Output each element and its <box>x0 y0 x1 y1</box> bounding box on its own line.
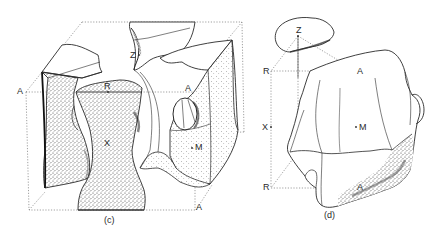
panel-c-label-A-left: A <box>17 87 23 96</box>
panel-c-label-X: X <box>104 139 110 148</box>
panel-d-label-R-bottom: R <box>263 183 270 192</box>
panel-c-label-A-bottom-right: A <box>196 203 202 212</box>
panel-c-label-R: R <box>104 82 111 91</box>
panel-d-label-A-top: A <box>357 67 363 76</box>
figure-drawing <box>0 0 446 239</box>
panel-d-label-R-top: R <box>263 67 270 76</box>
panel-c-label-Z: Z <box>130 51 136 60</box>
fermi-surface-figure: A R Z A X M A (c) Z R A X M R A (d) <box>0 0 446 239</box>
panel-d-label-A-bottom: A <box>357 183 363 192</box>
panel-d-label-X: X <box>262 123 268 132</box>
panel-d-label-M: M <box>359 123 367 132</box>
panel-c-label-M: M <box>195 143 203 152</box>
panel-d-caption: (d) <box>324 211 335 220</box>
panel-c-caption: (c) <box>104 216 115 225</box>
panel-d-label-Z: Z <box>296 26 302 35</box>
panel-d-drawing <box>270 17 424 207</box>
panel-c-label-A-upper-right: A <box>185 84 191 93</box>
